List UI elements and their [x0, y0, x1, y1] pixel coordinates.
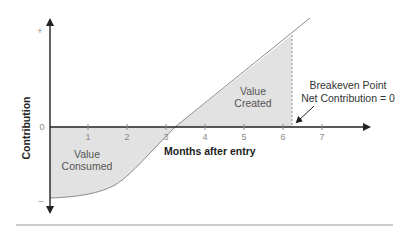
x-tick-label: 5: [241, 132, 246, 142]
breakeven-pointer-arrow: [297, 106, 314, 122]
value-created-label: Created: [234, 97, 272, 109]
x-tick-label: 2: [124, 132, 129, 142]
value-consumed-label: Consumed: [62, 160, 113, 172]
net-contribution-label: Net Contribution = 0: [301, 92, 395, 104]
value-consumed-label: Value: [74, 148, 100, 160]
breakeven-diagram: 1 2 3 4 5 6 7 + 0 – Contribution Months …: [0, 0, 413, 234]
x-tick-label: 6: [280, 132, 285, 142]
x-tick-label: 7: [319, 132, 324, 142]
y-plus-label: +: [37, 26, 42, 36]
y-minus-label: –: [38, 196, 43, 206]
x-tick-label: 1: [85, 132, 90, 142]
x-tick-label: 4: [202, 132, 207, 142]
value-created-label: Value: [240, 85, 266, 97]
x-axis-title: Months after entry: [164, 145, 256, 157]
y-axis-title: Contribution: [20, 97, 32, 160]
y-zero-label: 0: [39, 122, 44, 132]
breakeven-label: Breakeven Point: [309, 79, 386, 91]
x-tick-label: 3: [163, 132, 168, 142]
